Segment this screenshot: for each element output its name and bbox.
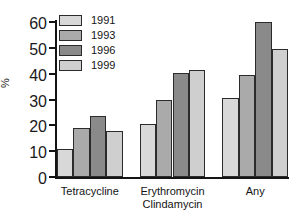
y-tick-label: 10 [5, 144, 47, 162]
y-tick-mark [49, 47, 55, 49]
legend-item-1996: 1996 [59, 44, 115, 57]
bar [57, 149, 73, 177]
legend-item-1991: 1991 [59, 14, 115, 27]
y-tick-label: 60 [5, 15, 47, 33]
legend-swatch-icon [59, 45, 82, 56]
x-axis-line [55, 177, 289, 179]
bar [255, 22, 271, 177]
legend: 1991199319961999 [59, 14, 115, 72]
y-tick-mark [49, 99, 55, 101]
y-tick-mark [49, 124, 55, 126]
y-tick-label: 50 [5, 41, 47, 59]
bar [73, 128, 89, 177]
legend-label: 1996 [91, 45, 115, 56]
y-tick-label: 20 [5, 118, 47, 136]
y-tick-mark [49, 73, 55, 75]
legend-label: 1999 [91, 60, 115, 71]
legend-item-1999: 1999 [59, 59, 115, 72]
bar [90, 116, 106, 177]
bar [222, 98, 238, 177]
y-tick-label: 30 [5, 93, 47, 111]
bar [173, 73, 189, 177]
x-axis-label-2: Any [195, 185, 300, 198]
bar [272, 49, 288, 177]
bar-chart: % 0102030405060 TetracyclineErythromycin… [0, 0, 300, 218]
y-tick-mark [49, 176, 55, 178]
legend-label: 1991 [91, 15, 115, 26]
legend-item-1993: 1993 [59, 29, 115, 42]
legend-swatch-icon [59, 15, 82, 26]
legend-swatch-icon [59, 30, 82, 41]
legend-label: 1993 [91, 30, 115, 41]
y-tick-mark [49, 150, 55, 152]
bar [239, 75, 255, 177]
bar [189, 70, 205, 177]
y-tick-label: 40 [5, 67, 47, 85]
bar [156, 100, 172, 177]
bar [140, 124, 156, 177]
bar [106, 131, 122, 177]
y-tick-mark [49, 21, 55, 23]
x-axis-label-line: Clindamycin [113, 198, 233, 211]
x-axis-label-line: Any [195, 185, 300, 198]
legend-swatch-icon [59, 60, 82, 71]
